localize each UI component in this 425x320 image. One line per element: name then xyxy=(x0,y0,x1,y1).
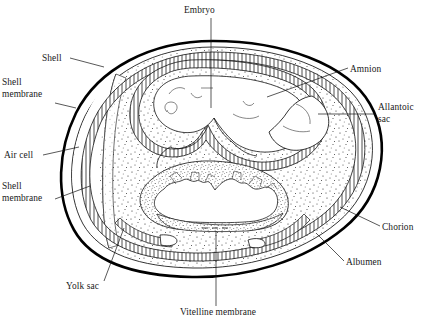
label-embryo: Embryo xyxy=(184,5,215,15)
label-shell: Shell xyxy=(42,53,62,63)
label-shell-membrane-upper-line1: Shell xyxy=(2,77,22,87)
label-shell-membrane-lower-line2: membrane xyxy=(2,193,42,203)
egg-cross-section-figure: Embryo Shell Shell membrane Air cell She… xyxy=(0,0,425,320)
label-albumen: Albumen xyxy=(346,257,382,267)
label-chorion: Chorion xyxy=(382,222,414,232)
leader-shell-membrane-upper xyxy=(55,103,76,108)
label-allantoic-sac-line1: Allantoic xyxy=(378,102,414,112)
label-shell-membrane-upper-line2: membrane xyxy=(2,89,42,99)
leader-shell xyxy=(70,58,104,67)
label-shell-membrane-lower-line1: Shell xyxy=(2,181,22,191)
label-vitelline-membrane: Vitelline membrane xyxy=(180,307,256,317)
label-air-cell: Air cell xyxy=(4,150,33,160)
egg-diagram-svg: Embryo Shell Shell membrane Air cell She… xyxy=(0,0,425,320)
label-allantoic-sac-line2: sac xyxy=(378,114,390,124)
label-amnion: Amnion xyxy=(350,64,382,74)
label-yolk-sac: Yolk sac xyxy=(66,281,99,291)
